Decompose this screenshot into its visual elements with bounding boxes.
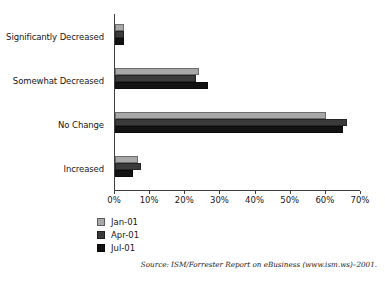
legend-label-apr01: Apr-01 [111,230,139,240]
y-axis-label-significantly-decreased: Significantly Decreased [0,32,104,42]
y-axis-label-increased: Increased [0,164,104,174]
x-axis-line [114,190,360,191]
bar-somewhat-decreased-apr01 [115,75,196,82]
x-axis-tick-label-60pct: 60% [308,195,342,205]
plot-area [114,14,362,190]
bar-significantly-decreased-apr01 [115,31,124,38]
x-axis-tick-label-50pct: 50% [273,195,307,205]
x-axis-tick-50pct [290,191,291,194]
x-axis-tick-label-30pct: 30% [202,195,236,205]
x-axis: 0%10%20%30%40%50%60%70% [114,190,364,214]
bar-chart: Significantly Decreased Somewhat Decreas… [0,14,385,196]
x-axis-tick-40pct [255,191,256,194]
legend: Jan-01 Apr-01 Jul-01 [97,215,217,254]
x-axis-tick-label-20pct: 20% [167,195,201,205]
bar-increased-apr01 [115,163,141,170]
legend-label-jan01: Jan-01 [111,217,138,227]
x-axis-tick-label-40pct: 40% [238,195,272,205]
cut-off-title-remnant: ________________________________________… [0,0,385,3]
legend-item-jan01[interactable]: Jan-01 [97,215,217,228]
y-axis-label-somewhat-decreased: Somewhat Decreased [0,76,104,86]
x-axis-tick-label-70pct: 70% [343,195,377,205]
x-axis-tick-60pct [325,191,326,194]
x-axis-tick-label-0pct: 0% [97,195,131,205]
bar-somewhat-decreased-jan01 [115,68,199,75]
bar-increased-jul01 [115,170,133,177]
bar-somewhat-decreased-jul01 [115,82,208,89]
bar-no-change-jul01 [115,126,343,133]
legend-item-jul01[interactable]: Jul-01 [97,241,217,254]
bar-no-change-apr01 [115,119,347,126]
source-citation: Source: ISM/Forrester Report on eBusines… [0,260,377,269]
x-axis-tick-20pct [184,191,185,194]
bar-significantly-decreased-jul01 [115,38,124,45]
legend-item-apr01[interactable]: Apr-01 [97,228,217,241]
legend-swatch-jul01 [97,244,105,252]
legend-label-jul01: Jul-01 [111,243,135,253]
legend-swatch-jan01 [97,218,105,226]
bar-significantly-decreased-jan01 [115,24,124,31]
legend-swatch-apr01 [97,231,105,239]
bar-increased-jan01 [115,156,138,163]
x-axis-tick-label-10pct: 10% [132,195,166,205]
x-axis-tick-30pct [219,191,220,194]
x-axis-tick-70pct [360,191,361,194]
y-axis-label-no-change: No Change [0,120,104,130]
x-axis-tick-0pct [114,191,115,194]
y-axis-category-labels: Significantly Decreased Somewhat Decreas… [0,14,110,190]
bar-no-change-jan01 [115,112,326,119]
x-axis-tick-10pct [149,191,150,194]
